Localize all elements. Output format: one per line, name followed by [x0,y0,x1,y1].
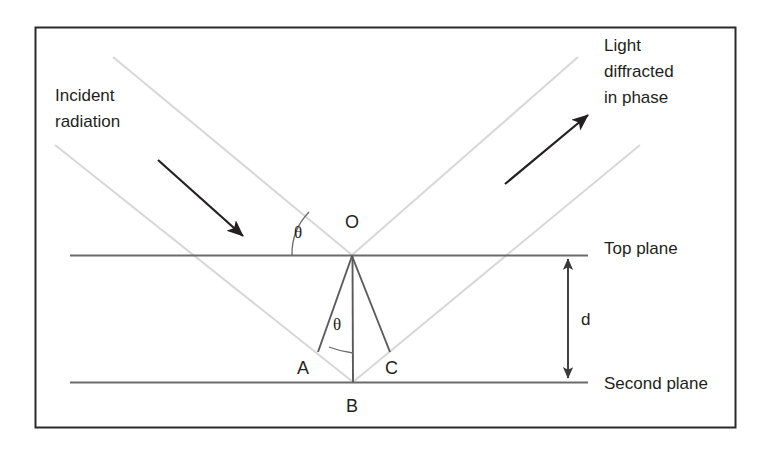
interplanar-spacing-label: d [581,310,590,329]
path-difference-angle-label: θ [333,315,341,334]
diffracted-light-label-line1: Light [604,36,641,55]
second-plane-label: Second plane [604,374,708,393]
point-label-A: A [297,358,309,378]
diagram-canvas: Incident radiation Light diffracted in p… [0,0,771,452]
segment-OB [353,256,354,382]
point-label-O: O [345,212,359,232]
incidence-angle-label: θ [294,223,302,242]
incident-radiation-label-line2: radiation [55,112,120,131]
top-plane-label: Top plane [604,239,678,258]
point-label-C: C [385,358,398,378]
incident-radiation-label-line1: Incident [55,86,115,105]
diffracted-light-label-line2: diffracted [604,62,674,81]
bragg-diffraction-figure: Incident radiation Light diffracted in p… [0,0,771,452]
diffracted-light-label-line3: in phase [604,88,668,107]
point-label-B: B [346,396,358,416]
